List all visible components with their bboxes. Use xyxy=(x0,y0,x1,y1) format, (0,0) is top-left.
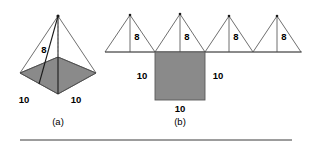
geometry-figure: 8 10 10 (a) 8 8 xyxy=(0,0,311,147)
net-triangle-3-slant-label: 8 xyxy=(233,31,238,42)
pyramid-slant-height-label: 8 xyxy=(41,44,46,55)
caption-a: (a) xyxy=(52,116,64,127)
net-triangle-2-apex-point xyxy=(179,13,182,16)
net-triangle-1-apex-point xyxy=(129,14,132,17)
net-triangle-4: 8 xyxy=(253,15,301,52)
net-triangle-1: 8 xyxy=(105,14,155,52)
figure-container: 8 10 10 (a) 8 8 xyxy=(0,0,311,147)
net-square-base-shaded xyxy=(155,52,205,100)
net-triangle-4-apex-point xyxy=(276,15,279,18)
pyramid-apex-point xyxy=(56,14,59,17)
pyramid-base-left-label: 10 xyxy=(19,94,30,105)
net-triangle-4-slant-label: 8 xyxy=(281,31,286,42)
net-triangle-2-slant-label: 8 xyxy=(184,31,189,42)
part-b-net: 8 8 8 8 xyxy=(105,13,302,127)
net-triangle-3-apex-point xyxy=(228,15,231,18)
net-triangle-3: 8 xyxy=(205,15,253,52)
net-square-left-label: 10 xyxy=(137,70,148,81)
part-a-pyramid: 8 10 10 (a) xyxy=(19,14,96,127)
net-square-right-label: 10 xyxy=(213,70,224,81)
net-square-bottom-label: 10 xyxy=(175,103,186,114)
net-triangle-1-slant-label: 8 xyxy=(134,31,139,42)
pyramid-base-right-label: 10 xyxy=(71,94,82,105)
caption-b: (b) xyxy=(174,116,186,127)
net-triangle-2: 8 xyxy=(155,13,205,52)
